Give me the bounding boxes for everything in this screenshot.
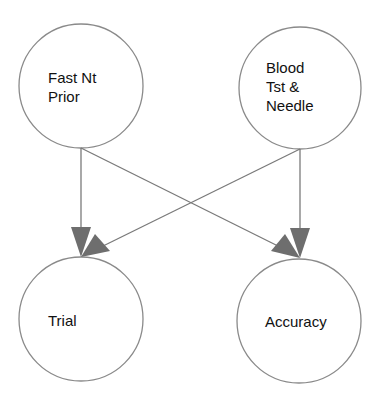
label-fast-nt-prior: Fast Nt Prior (48, 68, 96, 106)
node-trial (19, 257, 143, 381)
diagram-canvas (0, 0, 384, 398)
edge-fast-to-accuracy (81, 148, 282, 248)
label-trial: Trial (48, 311, 77, 330)
edge-blood-to-trial (99, 149, 300, 248)
label-accuracy: Accuracy (265, 312, 327, 331)
label-blood-tst-needle: Blood Tst & Needle (266, 58, 314, 115)
